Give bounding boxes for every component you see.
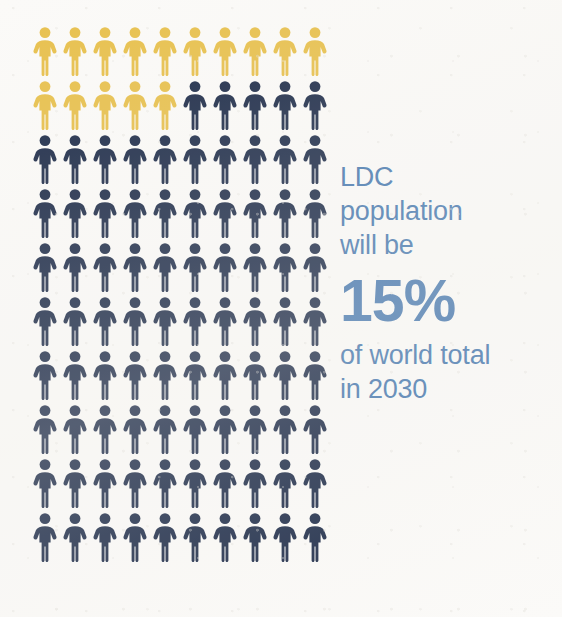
- pictogram-figure-world: [242, 458, 272, 512]
- pictogram-figure-world: [212, 80, 242, 134]
- person-icon: [32, 512, 58, 562]
- pictogram-figure-world: [152, 188, 182, 242]
- person-icon: [212, 26, 238, 76]
- pictogram-chart: [32, 26, 344, 592]
- person-icon: [62, 512, 88, 562]
- pictogram-figure-world: [302, 404, 332, 458]
- person-icon: [212, 512, 238, 562]
- pictogram-figure-world: [62, 134, 92, 188]
- callout-line-1: LDC: [340, 160, 546, 194]
- person-icon: [302, 26, 328, 76]
- person-icon: [272, 188, 298, 238]
- callout-line-5: in 2030: [340, 372, 546, 406]
- person-icon: [302, 134, 328, 184]
- pictogram-figure-world: [152, 404, 182, 458]
- person-icon: [92, 458, 118, 508]
- pictogram-figure-world: [212, 242, 242, 296]
- person-icon: [182, 404, 208, 454]
- pictogram-figure-world: [32, 296, 62, 350]
- pictogram-figure-ldc: [62, 80, 92, 134]
- pictogram-figure-world: [92, 458, 122, 512]
- person-icon: [92, 296, 118, 346]
- person-icon: [302, 188, 328, 238]
- person-icon: [32, 26, 58, 76]
- pictogram-figure-world: [152, 458, 182, 512]
- person-icon: [182, 296, 208, 346]
- person-icon: [32, 404, 58, 454]
- pictogram-figure-world: [62, 458, 92, 512]
- pictogram-figure-ldc: [92, 26, 122, 80]
- pictogram-figure-world: [152, 296, 182, 350]
- pictogram-figure-ldc: [272, 26, 302, 80]
- pictogram-figure-ldc: [242, 26, 272, 80]
- pictogram-figure-world: [32, 404, 62, 458]
- pictogram-figure-world: [272, 296, 302, 350]
- person-icon: [92, 242, 118, 292]
- pictogram-row: [32, 26, 344, 80]
- pictogram-figure-world: [302, 296, 332, 350]
- person-icon: [152, 80, 178, 130]
- person-icon: [182, 188, 208, 238]
- person-icon: [62, 296, 88, 346]
- pictogram-figure-ldc: [182, 26, 212, 80]
- person-icon: [212, 458, 238, 508]
- callout-line-4: of world total: [340, 338, 546, 372]
- pictogram-figure-world: [302, 350, 332, 404]
- pictogram-figure-world: [122, 350, 152, 404]
- person-icon: [182, 512, 208, 562]
- pictogram-figure-world: [242, 80, 272, 134]
- pictogram-figure-world: [92, 404, 122, 458]
- person-icon: [242, 26, 268, 76]
- person-icon: [242, 458, 268, 508]
- pictogram-figure-world: [92, 350, 122, 404]
- pictogram-figure-world: [152, 134, 182, 188]
- person-icon: [302, 242, 328, 292]
- person-icon: [182, 26, 208, 76]
- person-icon: [32, 188, 58, 238]
- pictogram-figure-world: [302, 80, 332, 134]
- person-icon: [152, 134, 178, 184]
- pictogram-figure-world: [302, 458, 332, 512]
- person-icon: [212, 296, 238, 346]
- pictogram-figure-world: [62, 404, 92, 458]
- person-icon: [272, 26, 298, 76]
- pictogram-figure-ldc: [32, 26, 62, 80]
- person-icon: [92, 26, 118, 76]
- person-icon: [302, 296, 328, 346]
- person-icon: [212, 404, 238, 454]
- callout-line-2: population: [340, 194, 546, 228]
- person-icon: [242, 80, 268, 130]
- person-icon: [272, 350, 298, 400]
- pictogram-figure-world: [122, 242, 152, 296]
- pictogram-figure-world: [62, 512, 92, 566]
- pictogram-row: [32, 350, 344, 404]
- person-icon: [272, 296, 298, 346]
- person-icon: [122, 350, 148, 400]
- pictogram-figure-world: [122, 512, 152, 566]
- person-icon: [62, 26, 88, 76]
- person-icon: [212, 134, 238, 184]
- pictogram-figure-world: [212, 458, 242, 512]
- pictogram-figure-world: [92, 188, 122, 242]
- person-icon: [302, 404, 328, 454]
- person-icon: [152, 458, 178, 508]
- pictogram-figure-world: [182, 134, 212, 188]
- pictogram-figure-world: [92, 512, 122, 566]
- pictogram-figure-world: [122, 296, 152, 350]
- pictogram-row: [32, 512, 344, 566]
- person-icon: [122, 80, 148, 130]
- person-icon: [32, 458, 58, 508]
- person-icon: [92, 188, 118, 238]
- person-icon: [242, 296, 268, 346]
- callout-text-block: LDC population will be 15% of world tota…: [340, 160, 546, 406]
- pictogram-figure-world: [32, 458, 62, 512]
- person-icon: [182, 134, 208, 184]
- callout-line-3: will be: [340, 228, 546, 262]
- pictogram-figure-world: [242, 134, 272, 188]
- pictogram-figure-ldc: [62, 26, 92, 80]
- person-icon: [152, 188, 178, 238]
- pictogram-figure-world: [182, 188, 212, 242]
- pictogram-figure-world: [62, 350, 92, 404]
- pictogram-figure-world: [212, 350, 242, 404]
- pictogram-figure-ldc: [302, 26, 332, 80]
